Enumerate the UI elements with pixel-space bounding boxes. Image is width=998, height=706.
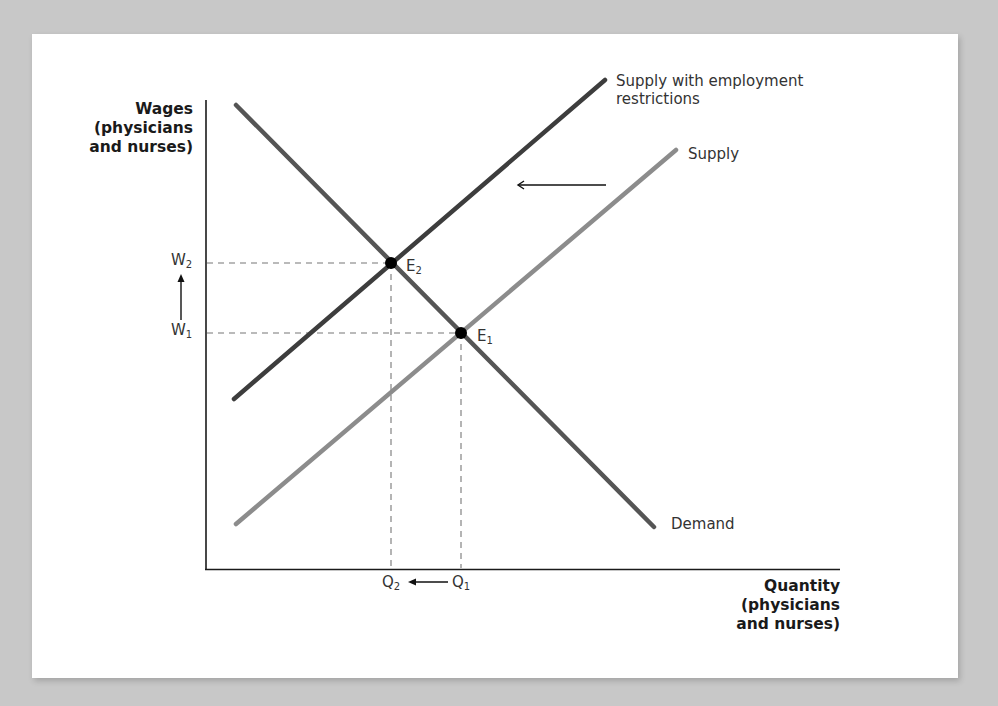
shift-left-arrow-icon — [518, 181, 606, 189]
quantity-left-arrow-icon — [408, 579, 448, 586]
y-axis-title: Wages (physicians and nurses) — [89, 100, 193, 157]
equilibrium-point-e1 — [455, 327, 467, 339]
equilibrium-point-e2 — [385, 257, 397, 269]
x-axis-title-line3: and nurses) — [736, 615, 840, 634]
y-axis-title-line2: (physicians — [89, 119, 193, 138]
demand-label: Demand — [671, 515, 735, 533]
supply-restricted-label-line1: Supply with employment — [616, 72, 803, 90]
tick-q2: Q2 — [382, 573, 400, 596]
tick-w1: W1 — [171, 321, 192, 344]
supply-label: Supply — [688, 145, 739, 163]
dashed-guides — [207, 263, 461, 568]
tick-q1: Q1 — [452, 573, 470, 596]
label-e2: E2 — [406, 257, 422, 280]
supply-restricted-label-line2: restrictions — [616, 90, 803, 108]
tick-w2: W2 — [171, 251, 192, 274]
y-axis-title-line1: Wages — [89, 100, 193, 119]
x-axis-title: Quantity (physicians and nurses) — [736, 577, 840, 634]
supply-restricted-curve — [234, 80, 605, 399]
y-axis-title-line3: and nurses) — [89, 138, 193, 157]
label-e1: E1 — [477, 327, 493, 350]
supply-restricted-label: Supply with employment restrictions — [616, 72, 803, 108]
demand-curve — [236, 105, 654, 527]
wage-up-arrow-icon — [178, 274, 185, 320]
x-axis-title-line2: (physicians — [736, 596, 840, 615]
x-axis-title-line1: Quantity — [736, 577, 840, 596]
